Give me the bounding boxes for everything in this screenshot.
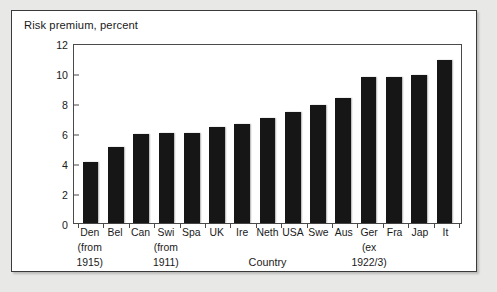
plot-area: 024681012 xyxy=(73,44,462,224)
bar-swi xyxy=(159,133,175,223)
x-note-den-1: (from xyxy=(60,241,120,254)
x-axis-title: Country xyxy=(228,256,308,268)
bar-slot xyxy=(179,45,204,223)
y-tick-label-10: 10 xyxy=(56,69,74,81)
y-tick-label-2: 2 xyxy=(62,189,74,201)
y-tick-label-8: 8 xyxy=(62,99,74,111)
x-label-ire: Ire xyxy=(229,226,254,244)
bar-usa xyxy=(285,112,301,223)
y-tick-label-12: 12 xyxy=(56,39,74,51)
bar-slot xyxy=(280,45,305,223)
x-note-den-2: 1915) xyxy=(60,256,120,269)
x-label-neth: Neth xyxy=(255,226,280,244)
x-label-jap: Jap xyxy=(407,226,432,244)
figure-frame: Risk premium, percent 024681012 DenBelCa… xyxy=(11,10,477,272)
x-label-uk: UK xyxy=(204,226,229,244)
bar-slot xyxy=(204,45,229,223)
bar-slot xyxy=(230,45,255,223)
bar-slot xyxy=(356,45,381,223)
bar-slot xyxy=(103,45,128,223)
figure-root: Risk premium, percent 024681012 DenBelCa… xyxy=(0,0,497,292)
bar-uk xyxy=(209,127,225,223)
bar-slot xyxy=(432,45,457,223)
bar-slot xyxy=(78,45,103,223)
bar-it xyxy=(437,60,453,223)
bar-ger xyxy=(361,77,377,223)
bar-slot xyxy=(129,45,154,223)
bar-bel xyxy=(108,147,124,223)
bar-slot xyxy=(154,45,179,223)
x-note-swi-1: (from xyxy=(136,241,196,254)
bar-slot xyxy=(331,45,356,223)
x-label-usa: USA xyxy=(280,226,305,244)
x-note-ger-2: 1922/3) xyxy=(339,256,399,269)
x-label-it: It xyxy=(433,226,458,244)
y-tick-label-6: 6 xyxy=(62,129,74,141)
bar-slot xyxy=(406,45,431,223)
bar-swe xyxy=(310,105,326,223)
bar-den xyxy=(83,162,99,224)
bars-layer xyxy=(74,45,461,223)
y-tick-label-4: 4 xyxy=(62,159,74,171)
x-axis-labels: DenBelCanSwiSpaUKIreNethUSASweAusGerFraJ… xyxy=(73,226,462,244)
bar-can xyxy=(133,134,149,223)
bar-neth xyxy=(260,118,276,223)
bar-slot xyxy=(255,45,280,223)
bar-spa xyxy=(184,133,200,223)
bar-fra xyxy=(386,77,402,223)
bar-jap xyxy=(411,75,427,223)
x-label-swe: Swe xyxy=(306,226,331,244)
bar-slot xyxy=(305,45,330,223)
bar-slot xyxy=(381,45,406,223)
x-note-swi-2: 1911) xyxy=(136,256,196,269)
bar-aus xyxy=(335,98,351,223)
chart-title: Risk premium, percent xyxy=(24,19,138,31)
bar-ire xyxy=(234,124,250,223)
x-note-ger-1: (ex xyxy=(339,241,399,254)
